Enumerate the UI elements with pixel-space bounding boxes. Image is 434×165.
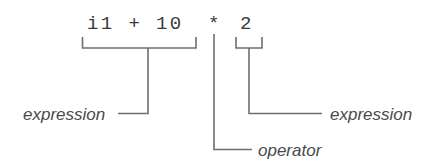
- code-right-operand: 2: [240, 13, 254, 35]
- left-expression-leader: [118, 48, 148, 114]
- syntax-breakdown-diagram: i1 + 10 * 2 expression operator expressi…: [0, 0, 434, 165]
- label-right-expression: expression: [330, 105, 412, 124]
- code-left-operand: i1 + 10: [87, 13, 184, 35]
- right-expression-leader: [249, 48, 322, 114]
- code-operator: *: [208, 13, 222, 35]
- left-expression-bracket: [83, 37, 197, 48]
- diagram-canvas: i1 + 10 * 2 expression operator expressi…: [0, 0, 434, 165]
- operator-leader: [214, 34, 252, 150]
- right-expression-bracket: [236, 37, 262, 48]
- label-left-expression: expression: [23, 105, 105, 124]
- label-operator: operator: [258, 141, 323, 160]
